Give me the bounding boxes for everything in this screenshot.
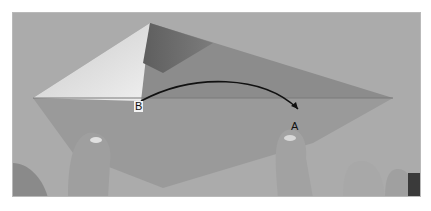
label-b: B: [134, 101, 143, 112]
origami-photo: [13, 13, 421, 197]
photo-frame: B A: [12, 12, 421, 197]
label-a: A: [291, 121, 298, 132]
